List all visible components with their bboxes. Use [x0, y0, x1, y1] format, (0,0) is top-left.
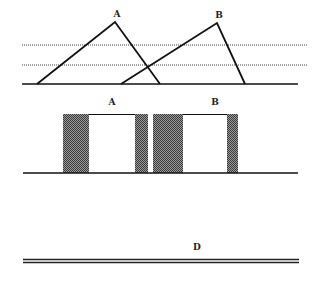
line-d-label: D — [193, 243, 201, 252]
block-a-white — [89, 114, 135, 173]
triangle-a-label: A — [114, 10, 121, 19]
block-b-shade-left — [153, 114, 183, 173]
block-a-label: A — [109, 98, 116, 107]
block-b-white — [183, 114, 227, 173]
top-panel — [22, 22, 308, 84]
block-a-shade-left — [63, 114, 89, 173]
block-b-label: B — [211, 98, 219, 107]
triangle-b-label: B — [215, 11, 223, 20]
middle-panel — [23, 114, 298, 173]
block-a-shade-right — [135, 114, 148, 173]
block-b-shade-right — [227, 114, 238, 173]
triangle-b — [121, 23, 245, 84]
diagram-canvas — [0, 0, 321, 281]
triangle-a — [37, 22, 160, 84]
bottom-panel — [23, 260, 299, 263]
